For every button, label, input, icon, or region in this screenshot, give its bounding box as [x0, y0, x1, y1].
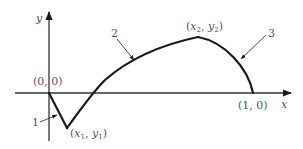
segment-3-label: 3	[268, 27, 275, 40]
maximum-point-label: (x2, y2)	[186, 20, 223, 34]
y-axis-label: y	[35, 12, 43, 25]
end-point-label: (1, 0)	[238, 99, 268, 112]
minimum-point-label: (x1, y1)	[70, 127, 107, 141]
segment-2-curve	[67, 37, 198, 128]
x-axis-label: x	[281, 98, 288, 111]
curve-diagram: y x (0, 0) (x1, y1) (x2, y2) (1, 0) 1 2 …	[0, 0, 303, 149]
origin-label: (0, 0)	[33, 75, 63, 88]
segment-1-line	[49, 93, 67, 128]
segment-2-label: 2	[111, 27, 118, 40]
segment-1-label: 1	[32, 116, 39, 129]
segment-3-curve	[198, 37, 253, 93]
segment-2-leader-arrow	[117, 39, 134, 60]
segment-3-leader-arrow	[241, 35, 266, 59]
